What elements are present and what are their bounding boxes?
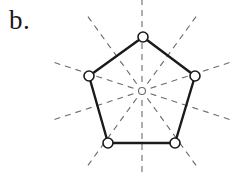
pentagon-vertex-marker xyxy=(138,32,148,42)
pentagon-vertex-marker xyxy=(84,71,94,81)
pentagon-edge xyxy=(175,76,195,143)
symmetry-axis-vertex xyxy=(88,98,137,165)
figure-container: b. xyxy=(0,0,230,177)
symmetry-axis-edge-midpoint xyxy=(151,94,230,120)
pentagon-vertex-marker xyxy=(103,138,113,148)
center-marker-group xyxy=(139,88,146,95)
symmetry-axis-edge-midpoint xyxy=(88,17,137,84)
symmetry-axis-edge-midpoint xyxy=(147,17,196,84)
symmetry-axis-vertex xyxy=(147,98,196,165)
pentagon-edge xyxy=(89,37,143,76)
pentagon-vertex-marker xyxy=(170,138,180,148)
center-marker-icon xyxy=(139,88,146,95)
pentagon-vertex-marker xyxy=(190,71,200,81)
pentagon-edge xyxy=(89,76,108,143)
pentagon-edge xyxy=(143,37,195,76)
pentagon-symmetry-diagram xyxy=(0,0,230,177)
